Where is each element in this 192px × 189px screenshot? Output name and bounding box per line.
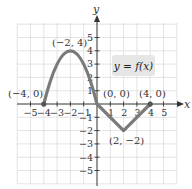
y-tick-label: 4: [87, 45, 93, 56]
point-label: (−4, 0): [8, 88, 43, 99]
function-label: y = f(x): [113, 60, 153, 72]
x-axis-label: x: [184, 98, 191, 111]
y-tick-label: −5: [79, 165, 93, 176]
x-tick-label: 2: [121, 107, 127, 118]
y-tick-label: −2: [79, 125, 93, 136]
y-axis-arrow-icon: [94, 15, 100, 22]
y-tick-label: 5: [87, 32, 93, 43]
y-tick-label: −4: [79, 152, 93, 163]
y-tick-label: −1: [79, 112, 93, 123]
function-graph: −5 −4 −3 −2 −1 1 2 3 4 5 1 2 3 4 5 −1 −2…: [0, 0, 192, 189]
x-tick-label: −4: [37, 107, 51, 118]
point-label: (4, 0): [139, 88, 166, 99]
point-label: (0, 0): [103, 88, 130, 99]
x-tick-label: −5: [23, 107, 37, 118]
y-tick-label: −3: [79, 138, 93, 149]
x-tick-label: −2: [63, 107, 77, 118]
point-label: (−2, 4): [52, 37, 87, 48]
point-label: (2, −2): [109, 135, 144, 146]
x-tick-label: −3: [50, 107, 64, 118]
y-axis-label: y: [92, 3, 100, 16]
x-tick-label: 5: [161, 107, 167, 118]
x-axis-arrow-icon: [177, 101, 184, 107]
endpoint-dot: [41, 101, 46, 106]
y-tick-label: 3: [87, 58, 93, 69]
x-tick-label: 4: [148, 107, 154, 118]
endpoint-dot: [148, 101, 153, 106]
